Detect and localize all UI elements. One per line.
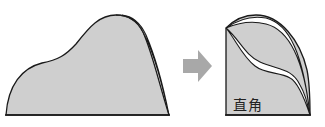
diagram-canvas: [0, 0, 325, 127]
left-shape: [5, 15, 170, 115]
right-angle-label: 直角: [233, 94, 263, 114]
right-arrow-icon: [183, 50, 212, 82]
